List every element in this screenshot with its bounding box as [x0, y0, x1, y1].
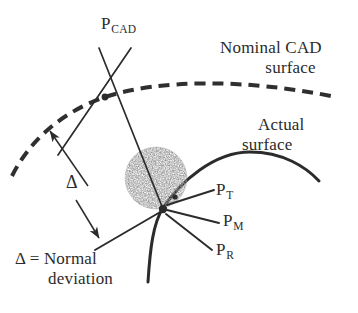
label-p-m: PM: [223, 211, 243, 230]
label-p-t: PT: [216, 180, 233, 199]
label-p-t-sub: T: [226, 189, 233, 201]
node-convergence: [159, 205, 167, 213]
measurement-spot-blob: [125, 147, 187, 209]
label-nominal-cad-surface-line1: Nominal CAD: [220, 38, 322, 58]
label-actual-surface-line1: Actual: [258, 115, 305, 135]
legend-normal-deviation-line1: Δ = Normal: [15, 249, 113, 269]
node-pt-contact: [172, 194, 177, 199]
label-actual-surface: Actual surface: [258, 115, 305, 155]
label-p-cad-base: P: [101, 14, 111, 33]
cad-deviation-diagram: PCAD Nominal CAD surface Actual surface …: [0, 0, 358, 313]
legend-normal-deviation-line2: deviation: [48, 269, 113, 289]
label-p-m-sub: M: [233, 220, 244, 232]
label-p-t-base: P: [216, 180, 226, 199]
label-p-cad: PCAD: [101, 14, 136, 33]
label-actual-surface-line2: surface: [242, 135, 305, 155]
delta-arrow-lower: [76, 200, 99, 238]
label-delta-symbol: Δ: [66, 172, 78, 192]
label-p-r-sub: R: [226, 249, 234, 261]
label-nominal-cad-surface-line2: surface: [220, 58, 322, 78]
label-p-r-base: P: [216, 240, 226, 259]
legend-normal-deviation: Δ = Normal deviation: [15, 249, 113, 289]
node-pcad: [102, 94, 109, 101]
label-p-m-base: P: [223, 211, 233, 230]
label-p-cad-sub: CAD: [111, 23, 136, 35]
label-p-r: PR: [216, 240, 234, 259]
label-nominal-cad-surface: Nominal CAD surface: [220, 38, 322, 78]
